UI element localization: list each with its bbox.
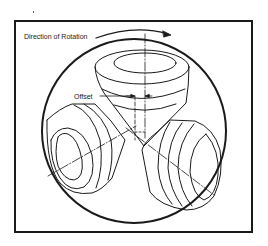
rotation-arrow (96, 30, 171, 38)
top-cone (95, 50, 189, 146)
offset-label: Offset (74, 93, 93, 100)
left-cone-axis (48, 126, 136, 176)
rotation-label: Direction of Rotation (24, 33, 87, 40)
right-cone (142, 120, 221, 210)
left-cone (47, 104, 125, 194)
